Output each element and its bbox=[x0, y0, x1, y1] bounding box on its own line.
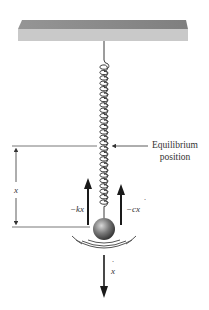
velocity-dot: ˙ bbox=[112, 259, 115, 269]
spring bbox=[100, 41, 109, 207]
velocity-arrow bbox=[100, 255, 108, 298]
equilibrium-label-line2: position bbox=[160, 152, 191, 162]
ceiling-support bbox=[18, 20, 188, 41]
mass-sphere bbox=[93, 218, 115, 240]
damping-force-label: −cx bbox=[126, 204, 140, 214]
ceiling-front-face bbox=[18, 29, 188, 41]
damping-force-dot: ˙ bbox=[144, 197, 147, 207]
spring-force-label: −kx bbox=[70, 204, 84, 214]
damping-force-arrow bbox=[117, 184, 125, 225]
spring-mass-diagram: Equilibrium position x −kx −cx ˙ x ˙ bbox=[0, 0, 209, 310]
spring-force-arrow bbox=[84, 178, 92, 225]
displacement-label: x bbox=[13, 185, 18, 195]
ceiling-top-face bbox=[18, 20, 188, 29]
equilibrium-label-line1: Equilibrium bbox=[152, 140, 199, 150]
